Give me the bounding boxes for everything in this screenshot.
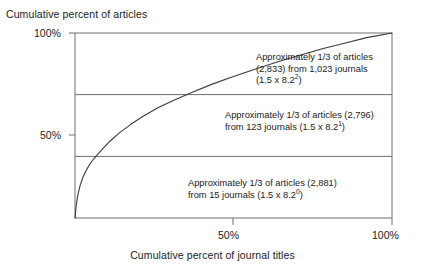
annotation-zone-1-line-1: Approximately 1/3 of articles (2,881) [188,178,337,190]
annotation-zone-2-formula-prefix: from 123 journals (1.5 x 8.2 [225,122,338,132]
annotation-zone-1-formula-suffix: ) [300,190,303,200]
plot-area [0,0,425,273]
annotation-zone-3-line-1: Approximately 1/3 of articles [256,52,373,64]
annotation-zone-2: Approximately 1/3 of articles (2,796) fr… [225,110,374,133]
annotation-zone-3-line-3: (1.5 x 8.22) [256,75,373,87]
annotation-zone-2-line-1: Approximately 1/3 of articles (2,796) [225,110,374,122]
annotation-zone-1-line-2: from 15 journals (1.5 x 8.20) [188,190,337,202]
annotation-zone-3-formula-suffix: ) [298,75,301,85]
annotation-zone-2-line-2: from 123 journals (1.5 x 8.21) [225,122,374,134]
x-axis-title: Cumulative percent of journal titles [0,249,425,261]
x-axis-tick-label-100: 100% [372,229,399,241]
annotation-zone-1-formula-prefix: from 15 journals (1.5 x 8.2 [188,190,296,200]
annotation-zone-1: Approximately 1/3 of articles (2,881) fr… [188,178,337,201]
x-axis-tick-label-50: 50% [218,229,239,241]
chart-figure: Cumulative percent of articles 100% 50% … [0,0,425,273]
annotation-zone-3-line-2: (2,833) from 1,023 journals [256,64,373,76]
annotation-zone-2-formula-suffix: ) [342,122,345,132]
annotation-zone-3: Approximately 1/3 of articles (2,833) fr… [256,52,373,87]
annotation-zone-3-formula-prefix: (1.5 x 8.2 [256,75,295,85]
